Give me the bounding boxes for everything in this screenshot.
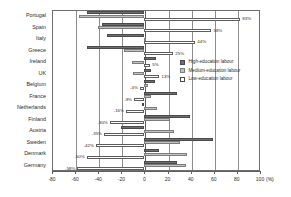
bar-high [107,34,144,37]
chart-row: -50% [52,148,260,160]
category-label: Austria [0,125,49,137]
bars-layer: 83%58%44%25%5%13%-4%-9%-16%-30%-35%-42%-… [52,10,260,171]
x-axis-tick [214,171,215,174]
chart-row: -42% [52,137,260,149]
category-label: Germany [0,160,49,172]
x-axis [52,171,260,174]
chart-row: -30% [52,114,260,126]
category-label: Spain [0,22,49,34]
x-axis-tick [75,171,76,174]
category-axis-labels: PortugalSpainItalyGreeceIrelandUKBelgium… [0,10,49,171]
x-axis-tick [144,171,145,174]
chart-row: 25% [52,45,260,57]
x-tick-label: 40 [188,177,194,182]
x-axis-tick [98,171,99,174]
x-axis-tick [237,171,238,174]
category-label: Portugal [0,10,49,22]
legend-label: Low-education labour [189,77,233,82]
category-label: Netherlands [0,102,49,114]
x-tick-label: -20 [118,177,125,182]
legend-swatch-medium [180,68,185,73]
chart-row: -16% [52,102,260,114]
bar-medium [133,72,145,75]
x-axis-unit-label: (%) [266,177,274,182]
chart-row: -58% [52,160,260,172]
bar-medium [79,15,145,18]
chart-row: 44% [52,33,260,45]
bar-high [144,57,156,60]
legend-label: High-education labour [189,60,234,65]
bar-medium [144,153,187,156]
x-tick-label: -80 [48,177,55,182]
category-label: Sweden [0,137,49,149]
chart-row: 58% [52,22,260,34]
bar-medium [98,26,144,29]
legend-item: Low-education labour [180,75,274,84]
x-tick-label: 20 [165,177,171,182]
x-axis-tick [52,171,53,174]
chart-row: 83% [52,10,260,22]
x-tick-label: 60 [211,177,217,182]
x-tick-label: 80 [234,177,240,182]
bar-medium [144,130,174,133]
x-axis-line [52,171,260,172]
legend-swatch-low [180,77,185,82]
legend-item: High-education labour [180,58,274,67]
bar-medium [144,118,169,121]
bar-high [121,126,144,129]
x-tick-label: 100 [256,177,264,182]
bar-medium [132,61,145,64]
category-label: Greece [0,45,49,57]
bar-medium [144,84,147,87]
bar-high [144,69,151,72]
chart-container: PortugalSpainItalyGreeceIrelandUKBelgium… [0,0,291,197]
category-label: Denmark [0,148,49,160]
category-label: Ireland [0,56,49,68]
category-label: France [0,91,49,103]
legend-swatch-high [180,60,185,65]
legend-item: Medium-education labour [180,67,274,76]
x-axis-tick [191,171,192,174]
category-label: Belgium [0,79,49,91]
category-label: UK [0,68,49,80]
bar-medium [144,164,186,167]
x-tick-label: -60 [71,177,78,182]
x-axis-tick [168,171,169,174]
category-label: Italy [0,33,49,45]
bar-medium [144,141,180,144]
x-tick-label: 0 [143,177,146,182]
category-label: Finland [0,114,49,126]
bar-medium [144,107,157,110]
chart-row: -9% [52,91,260,103]
bar-medium [144,95,151,98]
bar-medium [124,49,145,52]
x-axis-tick [121,171,122,174]
x-axis-tick [260,171,261,174]
chart-legend: High-education labourMedium-education la… [180,58,274,84]
chart-row: -35% [52,125,260,137]
legend-label: Medium-education labour [189,69,241,74]
x-tick-label: -40 [95,177,102,182]
